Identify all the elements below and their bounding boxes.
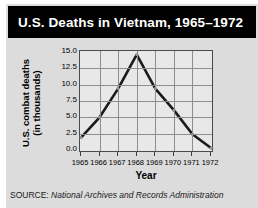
y-tick-label: 15.0 — [61, 46, 77, 55]
chart-figure: U.S. Deaths in Vietnam, 1965–1972 U.S. c… — [0, 0, 258, 208]
x-tick-mark — [154, 152, 155, 156]
y-tick-label: 5.0 — [66, 111, 77, 120]
y-tick-label: 7.5 — [66, 95, 77, 104]
x-tick-label: 1969 — [146, 158, 163, 167]
y-tick-label: 2.5 — [66, 128, 77, 137]
x-tick-mark — [99, 152, 100, 156]
x-tick-label: 1971 — [183, 158, 200, 167]
y-axis-title-line1: U.S. combat deaths — [20, 59, 31, 147]
x-tick-label: 1965 — [72, 158, 89, 167]
x-tick-labels: 19651966196719681969197019711972 — [60, 155, 240, 169]
gridline-vertical — [174, 51, 175, 151]
data-point-marker — [80, 136, 83, 139]
x-tick-label: 1968 — [127, 158, 144, 167]
data-point-marker — [210, 147, 213, 150]
gridline-vertical — [137, 51, 138, 151]
x-tick-label: 1970 — [165, 158, 182, 167]
x-tick-mark — [80, 152, 81, 156]
x-tick-label: 1972 — [202, 158, 219, 167]
x-tick-mark — [117, 152, 118, 156]
y-axis-title-line2: (in thousands) — [31, 59, 42, 147]
source-note: SOURCE: National Archives and Records Ad… — [10, 190, 223, 200]
x-axis-title: Year — [79, 170, 213, 181]
gridline-vertical — [155, 51, 156, 151]
y-tick-label: 12.5 — [61, 62, 77, 71]
y-tick-labels: 0.02.55.07.510.012.515.0 — [47, 44, 77, 158]
y-tick-label: 10.0 — [61, 79, 77, 88]
x-tick-mark — [210, 152, 211, 156]
x-tick-label: 1966 — [90, 158, 107, 167]
x-tick-mark — [136, 152, 137, 156]
x-tick-mark — [173, 152, 174, 156]
x-tick-label: 1967 — [109, 158, 126, 167]
source-text: National Archives and Records Administra… — [51, 190, 223, 200]
y-tick-label: 0.0 — [66, 144, 77, 153]
gridline-vertical — [118, 51, 119, 151]
gridline-vertical — [192, 51, 193, 151]
y-axis-title: U.S. combat deaths (in thousands) — [16, 48, 46, 158]
x-tick-mark — [191, 152, 192, 156]
source-label: SOURCE: — [10, 190, 51, 200]
page-title: U.S. Deaths in Vietnam, 1965–1972 — [8, 15, 243, 30]
plot-area — [79, 50, 213, 152]
title-bar: U.S. Deaths in Vietnam, 1965–1972 — [8, 6, 256, 38]
gridline-vertical — [100, 51, 101, 151]
